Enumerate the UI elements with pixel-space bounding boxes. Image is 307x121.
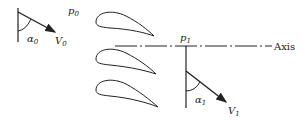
outlet-velocity-diagram: α1 V1 (186, 46, 240, 118)
diagram-svg: α0 V0 p0 Axis p1 α1 V1 (0, 0, 307, 121)
V1-label: V1 (228, 105, 240, 118)
V0-label: V0 (55, 35, 67, 48)
airfoil-2 (96, 49, 156, 74)
outlet-velocity-arrow (186, 71, 226, 102)
p1-label: p1 (180, 32, 191, 45)
alpha1-label: α1 (195, 94, 206, 107)
p0-label: p0 (68, 5, 79, 18)
airfoil-cascade (96, 12, 158, 107)
inlet-angle-arc (18, 19, 31, 31)
alpha0-label: α0 (27, 33, 39, 46)
outlet-angle-arc (186, 82, 200, 91)
airfoil-1 (96, 12, 154, 36)
inlet-velocity-diagram: α0 V0 (18, 8, 67, 48)
cascade-diagram: α0 V0 p0 Axis p1 α1 V1 (0, 0, 307, 121)
axis-label: Axis (273, 41, 295, 52)
airfoil-3 (96, 80, 158, 107)
